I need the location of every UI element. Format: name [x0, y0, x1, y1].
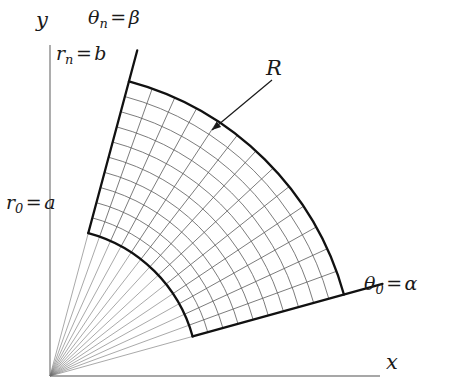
end-angle-label: θn=β — [88, 8, 140, 31]
grid-ray — [179, 227, 316, 304]
fan-line — [50, 233, 88, 376]
start-angle-equals: = — [384, 272, 405, 294]
grid-ray — [166, 187, 289, 284]
grid-ray — [141, 135, 237, 259]
region-pointer-arrow — [212, 80, 272, 130]
start-angle-subscript: 0 — [375, 282, 383, 297]
start-angle-symbol: θ — [364, 272, 375, 294]
x-axis-label: x — [386, 352, 398, 373]
fan-line — [50, 304, 179, 376]
grid-arc — [92, 218, 207, 332]
fan-line — [50, 246, 121, 376]
pointer-line — [212, 80, 272, 130]
fan-line — [50, 267, 150, 376]
end-angle-value: β — [129, 6, 140, 28]
inner-radius-value: a — [44, 191, 55, 213]
start-angle-value: α — [405, 272, 418, 294]
radial-fan-lines — [50, 233, 193, 376]
end-angle-symbol: θ — [88, 6, 99, 28]
outer-arc-boundary — [129, 81, 344, 294]
outer-radius-symbol: r — [56, 42, 65, 64]
fan-line — [50, 259, 141, 376]
fan-line — [50, 325, 189, 376]
inner-radius-symbol: r — [6, 191, 15, 213]
polar-sector-figure: y x θn=β rn=b r0=a θ0=α R — [0, 0, 453, 392]
inner-arc-boundary — [88, 233, 192, 336]
end-angle-boundary-ray — [88, 50, 137, 233]
end-angle-equals: = — [108, 6, 129, 28]
inner-radius-label: r0=a — [6, 193, 56, 216]
axes-group — [50, 45, 380, 376]
region-label: R — [266, 58, 282, 79]
grid-ray — [158, 168, 273, 275]
grid-arc — [101, 188, 239, 324]
outer-radius-equals: = — [73, 42, 94, 64]
grid-ray — [121, 109, 196, 247]
outer-radius-value: b — [94, 42, 106, 64]
region-boundary — [88, 50, 382, 336]
fan-line — [50, 284, 166, 376]
grid-arc — [117, 127, 299, 307]
outer-radius-label: rn=b — [56, 44, 106, 67]
grid-arc — [105, 172, 254, 319]
end-angle-subscript: n — [99, 16, 107, 31]
inner-radius-equals: = — [23, 191, 44, 213]
grid-arc — [96, 203, 222, 328]
fan-line — [50, 237, 100, 376]
grid-arc — [109, 157, 269, 315]
start-angle-label: θ0=α — [364, 274, 417, 297]
y-axis-label: y — [36, 10, 48, 31]
grid-ray — [111, 98, 175, 241]
start-angle-boundary-ray — [193, 284, 383, 337]
